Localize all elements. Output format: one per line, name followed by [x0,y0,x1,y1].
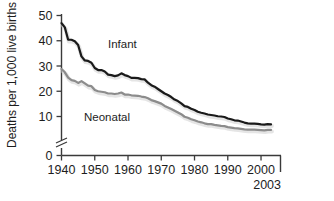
x-tick-label: 2000 [247,163,275,177]
y-axis-title: Deaths per 1,000 live births [5,2,19,148]
x-tick-label: 1940 [48,163,76,177]
x-tick-label: 1950 [81,163,109,177]
x-axis-ticks: 1940195019601970198019902000 [48,156,275,177]
infant-mortality-chart: Deaths per 1,000 live births 01020304050… [0,0,334,201]
x-tick-label: 1970 [147,163,175,177]
x-tick-label: 1990 [214,163,242,177]
y-axis-title-group: Deaths per 1,000 live births [5,2,19,148]
y-tick-label: 40 [39,34,53,48]
y-tick-label: 50 [39,9,53,23]
y-tick-label: 20 [39,85,53,99]
y-tick-label: 10 [39,110,53,124]
y-tick-label: 30 [39,60,53,74]
series-label-infant: Infant [108,38,138,50]
series-label-neonatal: Neonatal [84,111,130,123]
y-tick-label: 0 [46,149,53,163]
x-tick-label: 1980 [181,163,209,177]
y-axis-ticks: 01020304050 [39,9,62,163]
chart-canvas: Deaths per 1,000 live births 01020304050… [0,0,334,201]
x-axis-end-label: 2003 [253,178,281,192]
x-tick-label: 1960 [114,163,142,177]
